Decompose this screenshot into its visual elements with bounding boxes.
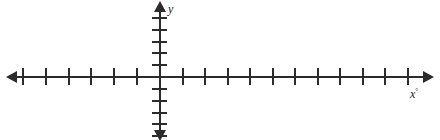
- x-axis-tick: [90, 68, 92, 85]
- y-axis-line: [159, 6, 161, 137]
- x-axis-tick: [339, 68, 341, 85]
- y-axis-label-text: y: [168, 2, 173, 16]
- x-axis-tick: [68, 68, 70, 85]
- x-axis-tick: [45, 68, 47, 85]
- y-axis-tick: [152, 88, 167, 90]
- x-axis-tick: [294, 68, 296, 85]
- x-axis-tick: [22, 68, 24, 85]
- y-axis-up-arrowhead-icon: [154, 1, 166, 12]
- y-axis-label: y: [168, 3, 173, 15]
- x-axis-left-arrowhead-icon: [6, 71, 17, 83]
- x-axis-line: [14, 76, 426, 78]
- x-axis-tick: [362, 68, 364, 85]
- x-axis-tick: [384, 68, 386, 85]
- x-axis-tick: [182, 68, 184, 85]
- x-axis-tick: [227, 68, 229, 85]
- y-axis-tick: [152, 64, 167, 66]
- y-axis-tick: [152, 17, 167, 19]
- y-axis-tick: [152, 41, 167, 43]
- x-axis-right-arrowhead-icon: [423, 71, 434, 83]
- y-axis-tick: [152, 29, 167, 31]
- x-axis-tick: [249, 68, 251, 85]
- coordinate-plane-figure: y x°: [0, 0, 440, 140]
- x-axis-tick: [272, 68, 274, 85]
- x-axis-tick: [407, 68, 409, 85]
- y-axis-tick: [152, 123, 167, 125]
- x-axis-label: x°: [410, 88, 418, 100]
- x-axis-tick: [317, 68, 319, 85]
- y-axis-tick: [152, 112, 167, 114]
- x-axis-tick: [204, 68, 206, 85]
- y-axis-tick: [152, 100, 167, 102]
- y-axis-tick: [152, 52, 167, 54]
- x-axis-label-mark: °: [415, 87, 418, 95]
- y-axis-tick: [152, 135, 167, 137]
- x-axis-tick: [113, 68, 115, 85]
- x-axis-tick: [136, 68, 138, 85]
